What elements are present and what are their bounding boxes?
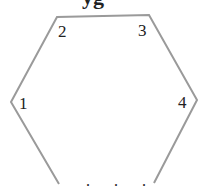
vertex-label-3: 3 (138, 21, 147, 40)
ellipsis: . . . (86, 172, 156, 189)
vertex-label-1: 1 (19, 94, 28, 113)
cut-off-title: yg (82, 0, 104, 9)
vertex-label-4: 4 (178, 93, 187, 112)
hexagon-diagram: yg 2 3 1 4 . . . (0, 0, 205, 192)
hexagon-outline (11, 15, 197, 184)
vertex-label-2: 2 (58, 22, 67, 41)
